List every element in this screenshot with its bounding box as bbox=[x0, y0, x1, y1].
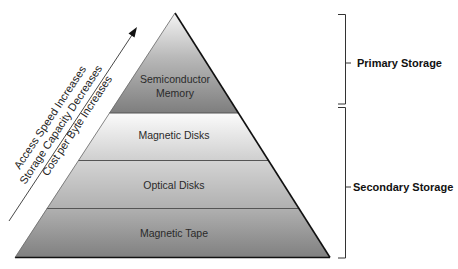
primary-storage-bracket bbox=[338, 15, 351, 105]
memory-hierarchy-diagram: Semiconductor Memory Magnetic Disks Opti… bbox=[0, 0, 458, 269]
label-semiconductor-line1: Semiconductor bbox=[140, 73, 211, 85]
label-magnetic-disks: Magnetic Disks bbox=[138, 129, 209, 141]
secondary-storage-bracket bbox=[338, 108, 351, 259]
label-semiconductor-line2: Memory bbox=[156, 87, 195, 99]
secondary-storage-label: Secondary Storage bbox=[353, 181, 453, 193]
label-optical-disks: Optical Disks bbox=[143, 179, 204, 191]
primary-storage-label: Primary Storage bbox=[357, 57, 442, 69]
arrow-head-icon bbox=[129, 27, 138, 38]
label-magnetic-tape: Magnetic Tape bbox=[140, 227, 208, 239]
